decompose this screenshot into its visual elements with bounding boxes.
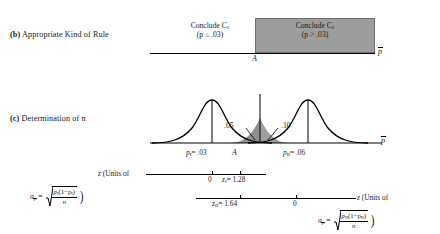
panel-b-label: (b) Appropriate Kind of Rule	[10, 30, 109, 39]
radical-1: pI(1−pI) n	[46, 186, 78, 207]
conclude-c1-condition: (p ≤ .03)	[165, 30, 255, 39]
z-lower-tick-critical	[240, 195, 241, 199]
closing-paren-2: )	[371, 213, 375, 228]
z-scale-lower-caption: z (Units of	[357, 194, 388, 202]
panel-b-axis	[150, 53, 375, 54]
sigma-eq-2: =	[326, 216, 330, 225]
conclude-c1-label: Conclude C	[191, 21, 227, 30]
sigma-formula-p2: σp = pII(1−pII) n )	[318, 210, 375, 231]
z-lower-origin-label: 0	[293, 200, 297, 208]
p1-value-label: pI= .03	[186, 149, 207, 157]
sigma-sub-1: p	[34, 198, 37, 199]
panel-b-title: Appropriate Kind of Rule	[22, 30, 109, 39]
panel-b-tag: (b)	[10, 30, 20, 39]
conclude-c2-subscript: 2	[332, 25, 335, 30]
conclude-c1-subscript: 1	[227, 25, 230, 30]
figure-canvas: (b) Appropriate Kind of Rule Conclude C1…	[0, 0, 440, 234]
alpha-area-label: .05	[224, 122, 234, 130]
z2-number: = 1.64	[218, 199, 237, 208]
z1-number: = 1.28	[227, 175, 246, 184]
panel-c-axis-symbol: p	[381, 136, 385, 145]
frac1-num-rest: (1−p	[58, 188, 71, 195]
frac2-den: n	[340, 222, 369, 231]
panel-c-tag: (c)	[10, 114, 19, 123]
conclude-c2-label: Conclude C	[296, 21, 332, 30]
sigma-eq-1: =	[38, 192, 42, 201]
z-upper-tick-origin	[212, 171, 213, 175]
z-upper-origin-label: 0	[208, 176, 212, 184]
sigma-formula-p1: σp = pI(1−pI) n )	[30, 186, 84, 207]
p1-number: = .03	[191, 148, 206, 157]
frac1-num-close: )	[73, 188, 75, 195]
p-bar-symbol-c: p	[381, 136, 385, 145]
p-bar-symbol-b: p	[378, 47, 382, 56]
panel-b-boundary-label: A	[252, 55, 257, 63]
z-upper-critical-label: zI= 1.28	[222, 176, 245, 184]
sigma-sub-2: p	[322, 222, 325, 223]
p2-value-label: pII= .06	[283, 149, 305, 157]
frac1-den: n	[52, 198, 78, 207]
panel-c-label: (c) Determination of n	[10, 114, 86, 123]
sampling-distribution-curves	[150, 88, 382, 148]
beta-area-label: .10	[281, 122, 291, 130]
frac2-num-close: )	[364, 212, 366, 219]
z-scale-upper-caption: z z (Units of(Units of	[98, 170, 129, 178]
panel-c-title: Determination of n	[22, 114, 86, 123]
conclude-c2-condition: (p > .03)	[270, 30, 360, 39]
conclude-c1-text: Conclude C1 (p ≤ .03)	[165, 21, 255, 40]
z-lower-critical-label: zII= 1.64	[212, 200, 237, 208]
panel-c-boundary-label: A	[232, 149, 237, 157]
panel-b-axis-symbol: p	[378, 47, 382, 56]
closing-paren-1: )	[80, 189, 84, 204]
radical-2: pII(1−pII) n	[334, 210, 369, 231]
p2-number: = .06	[290, 148, 305, 157]
conclude-c2-text: Conclude C2 (p > .03)	[270, 21, 360, 40]
z-scale-upper-axis	[146, 174, 266, 175]
frac2-num-rest: (1−p	[348, 212, 361, 219]
